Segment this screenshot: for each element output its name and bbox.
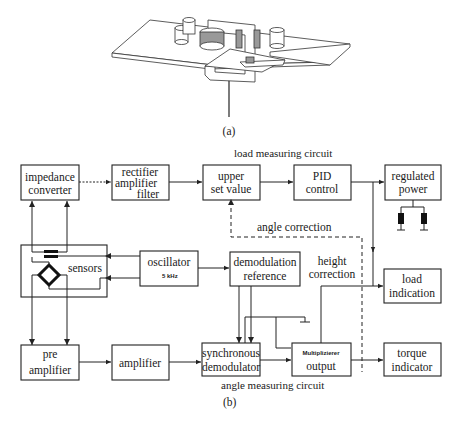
svg-text:amplifier: amplifier: [29, 364, 71, 377]
svg-text:5 kHz: 5 kHz: [162, 273, 178, 279]
box-synchronous-demodulator: synchronous demodulator: [202, 343, 261, 376]
label-load-measuring-circuit: load measuring circuit: [234, 147, 332, 159]
box-amplifier: amplifier: [112, 345, 169, 380]
svg-text:sensors: sensors: [68, 262, 102, 274]
svg-text:output: output: [306, 360, 336, 373]
svg-text:demodulator: demodulator: [202, 361, 260, 373]
svg-text:indication: indication: [389, 287, 435, 299]
label-height-correction-1: height: [318, 255, 348, 268]
box-oscillator: oscillator 5 kHz: [140, 251, 198, 286]
box-torque-indicator: torque indicator: [384, 343, 441, 376]
caption-b: (b): [223, 396, 237, 409]
svg-text:power: power: [399, 183, 428, 196]
svg-text:converter: converter: [28, 184, 72, 196]
box-demodulation-reference: demodulation reference: [230, 252, 300, 286]
svg-text:upper: upper: [218, 170, 244, 183]
svg-text:amplifier: amplifier: [119, 357, 161, 370]
svg-text:indicator: indicator: [392, 361, 433, 373]
coil-pair-icon: [397, 200, 428, 230]
box-pid-control: PID control: [294, 165, 351, 200]
box-pre-amplifier: pre amplifier: [21, 345, 79, 380]
label-angle-measuring-circuit: angle measuring circuit: [221, 379, 324, 391]
svg-text:torque: torque: [397, 347, 426, 360]
svg-text:set value: set value: [211, 183, 252, 195]
label-angle-correction: angle correction: [257, 221, 332, 234]
box-impedance-converter: impedance converter: [21, 165, 79, 200]
svg-text:oscillator: oscillator: [148, 256, 191, 268]
box-multiplier-output: Multiplizierer output: [292, 343, 351, 376]
box-load-indication: load indication: [384, 269, 441, 303]
box-regulated-power: regulated power: [385, 165, 441, 200]
svg-text:filter: filter: [137, 188, 160, 200]
label-height-correction-2: correction: [309, 268, 356, 280]
svg-text:regulated: regulated: [392, 170, 435, 183]
box-rectifier-amplifier-filter: rectifier amplifier filter: [112, 165, 169, 200]
svg-text:control: control: [306, 183, 339, 195]
figure-a-illustration: [112, 18, 350, 118]
svg-text:demodulation: demodulation: [233, 256, 296, 268]
svg-text:pre: pre: [43, 348, 58, 361]
svg-text:impedance: impedance: [25, 171, 75, 184]
caption-a: (a): [223, 125, 236, 138]
svg-text:PID: PID: [313, 170, 332, 182]
box-upper-set-value: upper set value: [203, 165, 260, 200]
svg-text:load: load: [402, 273, 422, 285]
svg-text:Multiplizierer: Multiplizierer: [302, 350, 340, 356]
svg-text:reference: reference: [244, 270, 287, 282]
svg-text:synchronous: synchronous: [202, 347, 261, 360]
figure: (a) load measuring circuit impedance con…: [0, 0, 458, 424]
